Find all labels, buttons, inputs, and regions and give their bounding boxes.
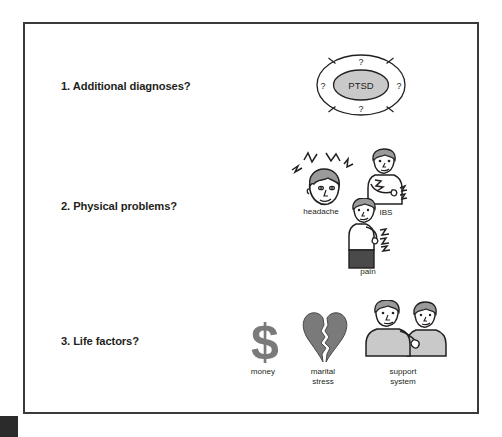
- support-left-eye-left: [382, 312, 385, 315]
- support-system-caption-line-1: support: [372, 367, 434, 377]
- row-label-life-factors: 3. Life factors?: [61, 335, 139, 347]
- ibs-eye-left: [379, 160, 382, 163]
- money-caption: money: [238, 367, 288, 377]
- support-right-eye-right: [429, 314, 431, 316]
- pain-back-zigzags: [380, 229, 390, 251]
- row-label-additional-diagnoses: 1. Additional diagnoses?: [61, 80, 191, 92]
- ibs-eye-right: [388, 160, 391, 163]
- support-right-eye-left: [420, 314, 422, 316]
- support-system-caption-line-2: system: [372, 377, 434, 387]
- dollar-sign-glyph: $: [251, 315, 279, 367]
- marital-stress-icon: [300, 310, 350, 366]
- ptsd-segment-right-label: ?: [396, 81, 401, 91]
- pain-hand: [372, 238, 378, 244]
- support-person-left-body: [366, 329, 410, 356]
- broken-heart-left-half: [303, 313, 326, 362]
- headache-pupil-right: [331, 187, 333, 189]
- marital-stress-caption-line-1: marital: [298, 367, 348, 377]
- row-label-physical-problems: 2. Physical problems?: [61, 200, 177, 212]
- pain-eye-left: [358, 209, 360, 211]
- support-system-icon-svg: [360, 300, 450, 364]
- money-icon-svg: $: [242, 315, 288, 367]
- marital-stress-caption: marital stress: [298, 367, 348, 387]
- money-caption-line-1: money: [238, 367, 288, 377]
- pain-eye-right: [367, 209, 369, 211]
- support-system-caption: support system: [372, 367, 434, 387]
- ptsd-segment-top-label: ?: [358, 57, 363, 67]
- pain-caption: pain: [346, 267, 390, 277]
- ibs-hand: [391, 190, 397, 196]
- marital-stress-caption-line-2: stress: [298, 377, 348, 387]
- broken-heart-right-half: [325, 313, 347, 362]
- headache-pupil-left: [320, 187, 322, 189]
- broken-heart-icon-svg: [300, 310, 350, 366]
- support-hand-on-shoulder: [411, 340, 419, 348]
- ptsd-segment-bottom-label: ?: [358, 104, 363, 114]
- ptsd-segment-left-label: ?: [320, 81, 325, 91]
- corner-mark: [0, 416, 18, 437]
- pain-icon-svg: [340, 198, 402, 272]
- ptsd-center-label: PTSD: [348, 80, 373, 91]
- pain-icon: [340, 198, 402, 272]
- support-left-eye-right: [392, 312, 395, 315]
- money-icon: $: [242, 315, 288, 367]
- support-system-icon: [360, 300, 450, 364]
- slide-frame: 1. Additional diagnoses? 2. Physical pro…: [23, 22, 479, 414]
- ptsd-wheel-diagram: PTSD ? ? ? ?: [315, 52, 407, 118]
- pain-trousers: [349, 250, 374, 268]
- ptsd-wheel-svg: PTSD ? ? ? ?: [315, 52, 407, 118]
